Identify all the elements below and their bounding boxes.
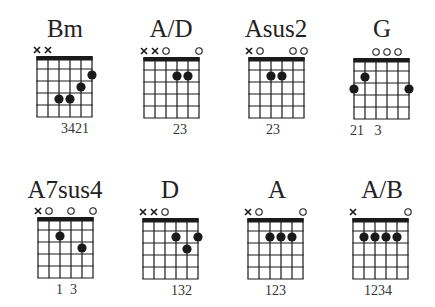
finger-dot <box>392 232 401 241</box>
open-string-icon <box>395 49 401 55</box>
nut <box>142 218 198 223</box>
open-string-icon <box>300 209 306 215</box>
fingering-numbers: 23 <box>266 123 280 137</box>
finger-dot <box>349 84 358 93</box>
chord-name: A/D <box>121 16 221 41</box>
finger-dot <box>65 94 74 103</box>
chord-diagram <box>136 44 207 126</box>
muted-string-icon <box>140 209 146 215</box>
finger-dot <box>182 244 191 253</box>
chord-name: A/B <box>332 177 432 202</box>
finger-dot <box>370 232 379 241</box>
muted-string-icon <box>141 48 147 54</box>
nut <box>352 218 408 223</box>
chord-name: A7sus4 <box>15 177 115 202</box>
nut <box>248 57 304 62</box>
nut <box>36 56 92 61</box>
finger-dot <box>172 71 181 80</box>
chord-diagram <box>345 205 416 287</box>
chord-diagram <box>29 43 100 125</box>
chord-diagram <box>240 205 311 287</box>
fingering-numbers: 3421 <box>61 122 89 136</box>
open-string-icon <box>405 209 411 215</box>
muted-string-icon <box>34 47 40 53</box>
fingering-numbers: 123 <box>265 284 286 298</box>
finger-dot <box>193 232 202 241</box>
fingering-numbers: 1234 <box>364 284 392 298</box>
nut <box>37 217 93 222</box>
muted-string-icon <box>245 209 251 215</box>
finger-dot <box>265 232 274 241</box>
chord-name: A <box>227 177 327 202</box>
nut <box>247 218 303 223</box>
chord-diagram <box>346 45 417 127</box>
finger-dot <box>87 70 96 79</box>
open-string-icon <box>68 208 74 214</box>
chord-diagram <box>30 204 101 286</box>
chord-name: Asus2 <box>226 16 326 41</box>
open-string-icon <box>256 209 262 215</box>
finger-dot <box>77 243 86 252</box>
finger-dot <box>359 232 368 241</box>
fingering-numbers: 21 3 <box>350 124 382 138</box>
finger-dot <box>287 232 296 241</box>
finger-dot <box>76 82 85 91</box>
finger-dot <box>381 232 390 241</box>
chord-diagram <box>241 44 312 126</box>
open-string-icon <box>301 48 307 54</box>
open-string-icon <box>196 48 202 54</box>
chord-name: G <box>332 16 432 41</box>
chord-name: Bm <box>15 16 115 41</box>
finger-dot <box>276 232 285 241</box>
open-string-icon <box>162 209 168 215</box>
nut <box>353 58 409 63</box>
finger-dot <box>55 231 64 240</box>
finger-dot <box>404 84 413 93</box>
muted-string-icon <box>45 47 51 53</box>
finger-dot <box>277 71 286 80</box>
nut <box>143 57 199 62</box>
open-string-icon <box>290 48 296 54</box>
fingering-numbers: 132 <box>171 284 192 298</box>
open-string-icon <box>384 49 390 55</box>
muted-string-icon <box>246 48 252 54</box>
open-string-icon <box>90 208 96 214</box>
chord-name: D <box>120 177 220 202</box>
muted-string-icon <box>35 208 41 214</box>
finger-dot <box>360 72 369 81</box>
open-string-icon <box>257 48 263 54</box>
open-string-icon <box>373 49 379 55</box>
muted-string-icon <box>151 209 157 215</box>
finger-dot <box>54 94 63 103</box>
fingering-numbers: 1 3 <box>56 283 77 297</box>
finger-dot <box>266 71 275 80</box>
open-string-icon <box>163 48 169 54</box>
muted-string-icon <box>152 48 158 54</box>
finger-dot <box>183 71 192 80</box>
muted-string-icon <box>350 209 356 215</box>
finger-dot <box>171 232 180 241</box>
open-string-icon <box>46 208 52 214</box>
chord-diagram <box>135 205 206 287</box>
fingering-numbers: 23 <box>173 123 187 137</box>
